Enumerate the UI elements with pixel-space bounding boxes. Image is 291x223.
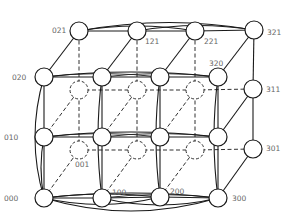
node-label-311: 311 xyxy=(266,85,281,94)
node-label-200: 200 xyxy=(170,187,185,196)
node-201 xyxy=(186,141,204,159)
mesh-graph-diagram: 0001002003000100203200013013110211212213… xyxy=(0,0,291,223)
node-121 xyxy=(128,22,146,40)
node-011 xyxy=(70,81,88,99)
node-321 xyxy=(245,21,263,39)
node-label-010: 010 xyxy=(4,133,19,142)
node-111 xyxy=(128,81,146,99)
node-221 xyxy=(186,22,204,40)
node-301 xyxy=(244,140,262,158)
nodes-layer xyxy=(35,21,263,207)
node-320 xyxy=(209,68,227,86)
wrap-edge-000-300 xyxy=(44,198,218,211)
node-010 xyxy=(35,128,53,146)
node-label-020: 020 xyxy=(12,73,27,82)
node-label-221: 221 xyxy=(204,37,219,46)
node-001 xyxy=(70,141,88,159)
node-210 xyxy=(151,128,169,146)
node-label-320: 320 xyxy=(209,59,224,68)
node-020 xyxy=(35,68,53,86)
node-021 xyxy=(70,22,88,40)
node-label-321: 321 xyxy=(267,28,282,37)
node-label-300: 300 xyxy=(232,194,247,203)
node-000 xyxy=(35,189,53,207)
node-label-000: 000 xyxy=(4,194,19,203)
diagram-canvas: 0001002003000100203200013013110211212213… xyxy=(0,0,291,223)
node-110 xyxy=(93,128,111,146)
node-label-021: 021 xyxy=(52,26,67,35)
node-300 xyxy=(209,189,227,207)
node-100 xyxy=(93,189,111,207)
node-120 xyxy=(93,68,111,86)
node-101 xyxy=(128,141,146,159)
node-310 xyxy=(209,128,227,146)
node-label-100: 100 xyxy=(112,188,127,197)
node-200 xyxy=(151,188,169,206)
node-220 xyxy=(151,68,169,86)
node-label-001: 001 xyxy=(75,160,90,169)
node-211 xyxy=(186,81,204,99)
node-311 xyxy=(244,80,262,98)
edges-layer xyxy=(35,22,254,211)
node-label-301: 301 xyxy=(266,144,281,153)
labels-layer: 0001002003000100203200013013110211212213… xyxy=(4,26,282,203)
node-label-121: 121 xyxy=(145,37,160,46)
